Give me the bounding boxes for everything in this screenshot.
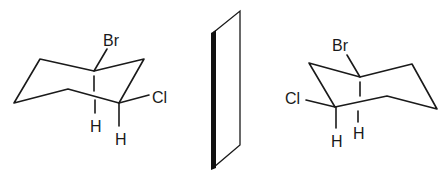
right-br-label: Br [332,37,349,54]
left-h1-label: H [90,118,102,135]
right-h2-label: H [353,125,365,142]
diagram-canvas: Br Cl H H Br Cl H H [0,0,447,176]
left-cl-label: Cl [152,89,167,106]
right-chair-molecule: Br Cl H H [285,37,437,150]
mirror-face [214,11,240,167]
right-ring [309,63,437,109]
left-chair-molecule: Br Cl H H [14,32,167,148]
left-h2-label: H [115,131,127,148]
mirror-plane [211,11,240,170]
right-h1-label: H [331,133,343,150]
mirror-edge [211,30,216,170]
left-ring [14,59,144,103]
left-br-label: Br [103,32,120,49]
right-cl-label: Cl [285,90,300,107]
